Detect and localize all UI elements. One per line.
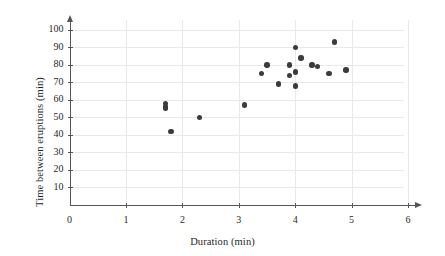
y-axis-tick — [68, 170, 73, 171]
y-axis-tick-label: 50 — [54, 111, 64, 122]
x-axis-tick-label: 1 — [116, 214, 136, 225]
data-point — [309, 62, 314, 67]
y-axis-tick-label: 20 — [54, 163, 64, 174]
plot-area: 1020304050607080901000123456 — [0, 0, 445, 256]
x-axis-tick-label: 3 — [229, 214, 249, 225]
data-point — [343, 67, 348, 72]
data-point — [197, 115, 202, 120]
data-point — [326, 71, 331, 76]
data-point — [287, 73, 292, 78]
y-axis-tick — [68, 100, 73, 101]
gridline-vertical — [239, 20, 240, 205]
gridline-horizontal — [70, 82, 405, 83]
y-axis-tick-label: 100 — [49, 23, 64, 34]
gridline-vertical — [408, 20, 409, 205]
data-point — [264, 62, 269, 67]
y-axis-tick — [68, 152, 73, 153]
data-point — [332, 39, 337, 44]
gridline-horizontal — [70, 65, 405, 66]
x-axis-tick — [239, 203, 240, 208]
x-axis-tick — [408, 203, 409, 208]
gridline-horizontal — [70, 30, 405, 31]
y-axis-tick — [68, 135, 73, 136]
scatter-chart: 1020304050607080901000123456 Time betwee… — [0, 0, 445, 256]
y-axis-tick — [68, 65, 73, 66]
gridline-horizontal — [70, 170, 405, 171]
y-axis-tick-label: 10 — [54, 181, 64, 192]
data-point — [293, 69, 298, 74]
x-axis-tick-label: 2 — [172, 214, 192, 225]
gridline-vertical — [126, 20, 127, 205]
gridline-horizontal — [70, 152, 405, 153]
y-axis-tick — [68, 117, 73, 118]
x-axis-tick-label: 5 — [342, 214, 362, 225]
y-axis-tick-label: 60 — [54, 93, 64, 104]
data-point — [287, 62, 292, 67]
y-axis-arrow-icon — [67, 15, 73, 22]
data-point — [242, 102, 247, 107]
data-point — [293, 83, 298, 88]
x-axis-tick-label: 0 — [60, 214, 80, 225]
gridline-vertical — [182, 20, 183, 205]
gridline-vertical — [352, 20, 353, 205]
gridline-horizontal — [70, 187, 405, 188]
x-axis-tick — [182, 203, 183, 208]
y-axis-tick — [68, 82, 73, 83]
y-axis-tick — [68, 47, 73, 48]
y-axis-tick-label: 90 — [54, 41, 64, 52]
gridline-horizontal — [70, 47, 405, 48]
data-point — [276, 81, 281, 86]
x-axis-line — [70, 205, 417, 206]
y-axis-tick-label: 80 — [54, 58, 64, 69]
y-axis-title: Time between eruptions (min) — [34, 7, 50, 207]
y-axis-tick-label: 40 — [54, 128, 64, 139]
y-axis-tick-label: 70 — [54, 76, 64, 87]
x-axis-tick — [295, 203, 296, 208]
x-axis-tick-label: 4 — [285, 214, 305, 225]
gridline-horizontal — [70, 117, 405, 118]
data-point — [315, 64, 320, 69]
y-axis-tick — [68, 187, 73, 188]
data-point — [293, 45, 298, 50]
x-axis-tick — [126, 203, 127, 208]
x-axis-arrow-icon — [415, 202, 422, 208]
data-point — [163, 106, 168, 111]
x-axis-title: Duration (min) — [0, 236, 445, 247]
y-axis-tick — [68, 30, 73, 31]
y-axis-line — [70, 21, 71, 205]
gridline-horizontal — [70, 135, 405, 136]
data-point — [298, 55, 303, 60]
data-point — [168, 129, 173, 134]
y-axis-tick-label: 30 — [54, 146, 64, 157]
x-axis-tick — [352, 203, 353, 208]
gridline-horizontal — [70, 100, 405, 101]
data-point — [259, 71, 264, 76]
x-axis-tick-label: 6 — [398, 214, 418, 225]
